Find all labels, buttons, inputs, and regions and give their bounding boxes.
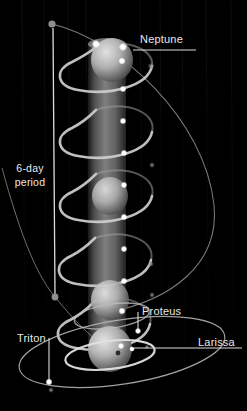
triton-marker (45, 378, 52, 385)
larissa-dark-marker (116, 351, 121, 356)
proteus-marker (135, 328, 141, 334)
triton-marker-shadow (48, 387, 54, 393)
label-neptune: Neptune (140, 33, 183, 46)
label-proteus: Proteus (142, 305, 181, 318)
label-period: 6-day period (4, 161, 56, 189)
figure-canvas: Neptune 6-day period Proteus Triton Lari… (0, 0, 247, 411)
label-period-line1: 6-day (4, 161, 56, 175)
larissa-marker (129, 346, 135, 352)
label-period-line2: period (4, 175, 56, 189)
label-larissa: Larissa (198, 336, 235, 349)
neptune-globe-bottom (88, 326, 132, 372)
label-triton: Triton (17, 332, 46, 345)
diagram-svg (0, 0, 247, 411)
